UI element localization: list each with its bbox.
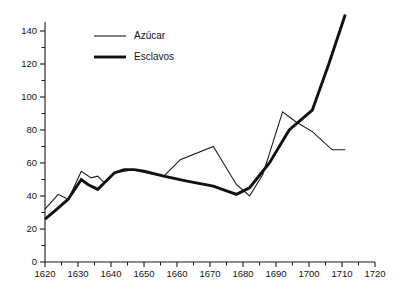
- x-tick-label: 1670: [199, 268, 220, 279]
- series-line-azucar: [45, 112, 345, 209]
- x-tick-label: 1690: [265, 268, 286, 279]
- x-tick-label: 1660: [166, 268, 187, 279]
- x-tick-label: 1710: [331, 268, 352, 279]
- line-chart: 0204060801001201401620163016401650166016…: [0, 0, 398, 291]
- series-line-esclavos: [45, 15, 345, 220]
- legend-label-azucar: Azúcar: [134, 30, 166, 41]
- axes: [40, 22, 375, 267]
- x-tick-label: 1720: [364, 268, 385, 279]
- legend-label-esclavos: Esclavos: [134, 51, 174, 62]
- y-tick-label: 140: [21, 25, 37, 36]
- y-tick-label: 0: [32, 256, 37, 267]
- chart-root: 0204060801001201401620163016401650166016…: [0, 0, 398, 291]
- y-tick-label: 80: [26, 124, 37, 135]
- data-series: [45, 15, 345, 220]
- x-tick-label: 1630: [67, 268, 88, 279]
- x-tick-label: 1680: [232, 268, 253, 279]
- tick-labels: 0204060801001201401620163016401650166016…: [21, 25, 385, 280]
- y-tick-label: 100: [21, 91, 37, 102]
- chart-legend: AzúcarEsclavos: [94, 30, 174, 62]
- x-tick-label: 1700: [298, 268, 319, 279]
- x-tick-label: 1640: [100, 268, 121, 279]
- y-tick-label: 120: [21, 58, 37, 69]
- y-tick-label: 20: [26, 223, 37, 234]
- y-tick-label: 40: [26, 190, 37, 201]
- x-tick-label: 1620: [34, 268, 55, 279]
- y-tick-label: 60: [26, 157, 37, 168]
- x-tick-label: 1650: [133, 268, 154, 279]
